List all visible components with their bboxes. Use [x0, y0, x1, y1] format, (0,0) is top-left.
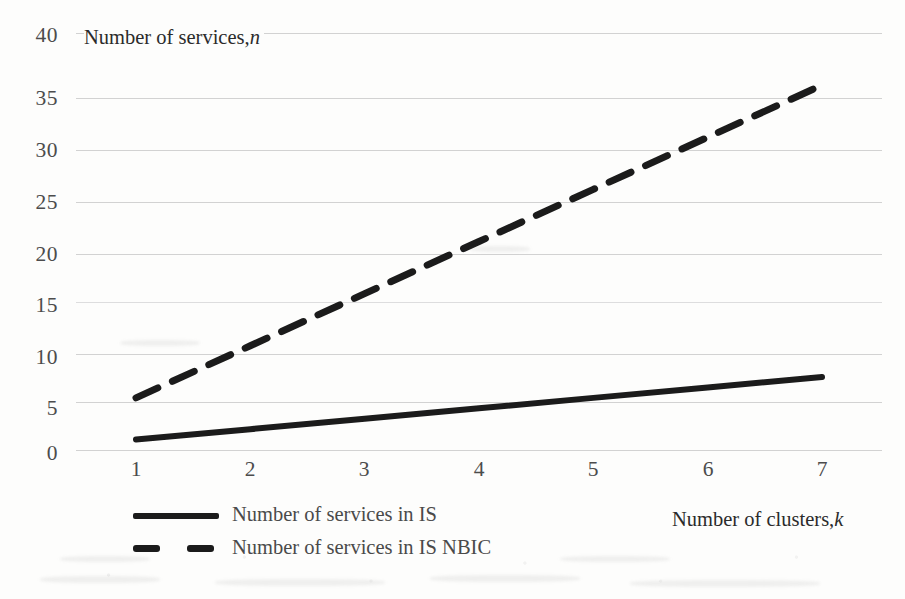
y-tick-10: 10 — [36, 347, 59, 369]
plot-area — [76, 33, 882, 450]
y-axis-title: Number of services,n — [84, 26, 264, 49]
x-tick-2: 2 — [245, 459, 256, 481]
legend-dashed-line-icon — [130, 541, 222, 555]
y-tick-30: 30 — [36, 140, 59, 162]
data-lines — [76, 33, 882, 450]
x-tick-7: 7 — [817, 459, 828, 481]
y-axis-title-symbol: n — [250, 26, 260, 48]
y-axis-title-text: Number of services, — [84, 26, 250, 48]
legend-solid-line-icon — [130, 508, 222, 522]
y-tick-15: 15 — [36, 295, 59, 317]
y-tick-40: 40 — [36, 25, 59, 47]
gridline-0 — [76, 450, 882, 451]
x-tick-4: 4 — [474, 459, 485, 481]
chart-legend: Number of services in IS Number of servi… — [130, 498, 650, 564]
y-tick-25: 25 — [36, 192, 59, 214]
legend-item-is[interactable]: Number of services in IS — [130, 498, 650, 531]
legend-item-is-nbic[interactable]: Number of services in IS NBIC — [130, 531, 650, 564]
scan-artifact — [215, 579, 385, 586]
x-tick-3: 3 — [359, 459, 370, 481]
series-line-0 — [136, 377, 822, 440]
y-tick-35: 35 — [36, 88, 59, 110]
x-axis-title: Number of clusters,k — [672, 508, 843, 531]
y-axis-tick-labels: 40 35 30 25 20 15 10 5 0 — [0, 0, 70, 599]
x-tick-5: 5 — [588, 459, 599, 481]
y-tick-5: 5 — [47, 398, 58, 420]
chart-figure: 40 35 30 25 20 15 10 5 0 Number of servi… — [0, 0, 905, 599]
y-tick-20: 20 — [36, 244, 59, 266]
series-line-1 — [136, 85, 822, 398]
x-tick-6: 6 — [703, 459, 714, 481]
legend-label-is-nbic: Number of services in IS NBIC — [232, 536, 491, 559]
legend-label-is: Number of services in IS — [232, 503, 437, 526]
x-axis-title-symbol: k — [834, 508, 843, 530]
scan-artifact — [630, 580, 820, 587]
scan-artifact — [430, 575, 580, 582]
x-axis-tick-labels: 1 2 3 4 5 6 7 — [0, 459, 905, 493]
x-axis-title-text: Number of clusters, — [672, 508, 834, 530]
x-tick-1: 1 — [131, 459, 142, 481]
